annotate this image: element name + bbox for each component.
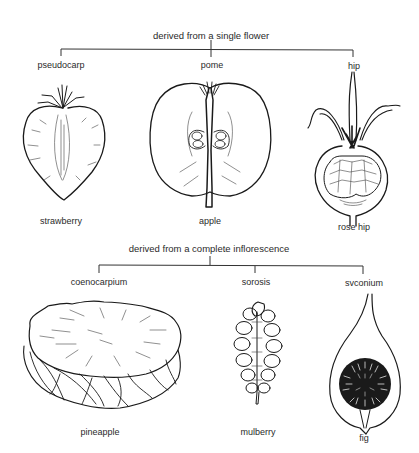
example-fig: fig (359, 433, 369, 443)
inflorescence-bracket (99, 256, 363, 274)
category-hip: hip (348, 61, 360, 71)
example-rose-hip: rose hip (338, 222, 370, 232)
mulberry-illustration (234, 302, 282, 404)
fig-illustration (330, 294, 401, 434)
example-mulberry: mulberry (240, 427, 275, 437)
category-pome: pome (201, 60, 224, 70)
category-pseudocarp: pseudocarp (37, 60, 84, 70)
pineapple-illustration (24, 301, 181, 408)
category-coenocarpium: coenocarpium (71, 277, 128, 287)
example-pineapple: pineapple (80, 427, 119, 437)
inflorescence-heading: derived from a complete inflorescence (129, 243, 290, 254)
single-flower-heading: derived from a single flower (153, 30, 269, 41)
rose-hip-illustration (308, 72, 400, 226)
category-syconium: svconium (345, 278, 383, 288)
apple-illustration (150, 82, 271, 207)
example-apple: apple (199, 216, 221, 226)
strawberry-illustration (23, 85, 104, 200)
example-strawberry: strawberry (40, 216, 82, 226)
category-sorosis: sorosis (242, 277, 271, 287)
single-flower-bracket (61, 40, 353, 57)
